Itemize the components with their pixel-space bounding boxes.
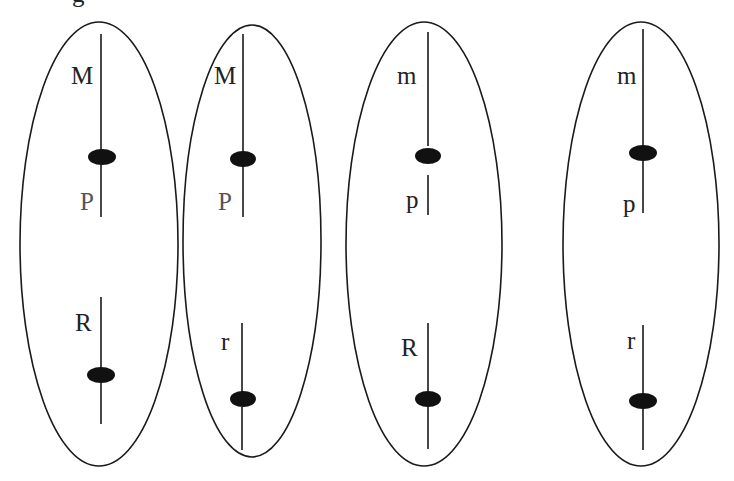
gene-label-lower: p — [406, 186, 419, 213]
centromere-icon — [230, 151, 256, 167]
gene-label-upper: m — [617, 62, 637, 89]
gene-label-upper: m — [397, 62, 417, 89]
gene-label-upper: M — [214, 62, 236, 89]
gene-label-upper: M — [71, 62, 93, 89]
chromosome-diagram: g M P R M P r m p R — [0, 0, 734, 481]
cell-2: M P r — [183, 25, 321, 457]
gene-label-lower: P — [80, 188, 94, 215]
centromere-icon — [415, 148, 441, 164]
gene-label-chromosome-2: r — [627, 327, 636, 354]
centromere-icon — [629, 393, 657, 409]
centromere-icon — [87, 367, 115, 383]
centromere-icon — [230, 391, 256, 407]
gene-label-chromosome-2: R — [401, 334, 418, 361]
caption-fragment: g — [72, 0, 85, 7]
cell-membrane — [183, 25, 321, 457]
centromere-icon — [88, 149, 116, 165]
cell-3: m p R — [346, 22, 502, 466]
gene-label-chromosome-2: R — [75, 309, 92, 336]
centromere-icon — [415, 391, 441, 407]
cell-membrane — [20, 22, 178, 466]
gene-label-chromosome-2: r — [221, 328, 230, 355]
gene-label-lower: p — [623, 190, 636, 217]
gene-label-lower: P — [218, 188, 232, 215]
cell-1: M P R — [20, 22, 178, 466]
cell-4: m p r — [563, 22, 719, 466]
centromere-icon — [629, 145, 657, 161]
